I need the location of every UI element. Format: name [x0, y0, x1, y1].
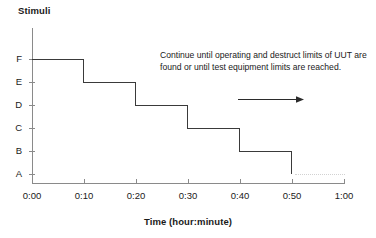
- y-label-a: A: [4, 168, 22, 179]
- step-drop-f-to-e: [83, 59, 84, 82]
- y-tick-a: [29, 174, 35, 175]
- step-drop-c-to-b: [239, 128, 240, 151]
- y-label-c: C: [4, 122, 22, 133]
- annotation-text: Continue until operating and destruct li…: [160, 50, 372, 73]
- stimuli-step-chart: Stimuli Time (hour:minute) F E D C B A 0…: [0, 0, 376, 238]
- x-label-0-30: 0:30: [166, 190, 210, 201]
- step-segment-e: [83, 82, 136, 83]
- step-segment-a-dotted: [295, 174, 345, 175]
- x-tick-1-00: [344, 179, 345, 184]
- step-drop-d-to-c: [187, 105, 188, 128]
- y-tick-d: [29, 105, 35, 106]
- continuation-arrow-icon: [238, 95, 304, 104]
- x-label-0-10: 0:10: [62, 190, 106, 201]
- x-label-1-00: 1:00: [322, 190, 366, 201]
- y-label-d: D: [4, 99, 22, 110]
- x-tick-0-30: [188, 179, 189, 184]
- step-segment-f: [32, 59, 84, 60]
- x-label-0-20: 0:20: [114, 190, 158, 201]
- step-drop-e-to-d: [135, 82, 136, 105]
- x-tick-0-20: [136, 179, 137, 184]
- y-label-f: F: [4, 53, 22, 64]
- step-drop-b-to-a: [291, 151, 292, 174]
- step-segment-c: [187, 128, 240, 129]
- x-tick-0-00: [32, 179, 33, 184]
- x-label-0-50: 0:50: [270, 190, 314, 201]
- step-segment-d: [135, 105, 188, 106]
- y-label-e: E: [4, 76, 22, 87]
- y-tick-e: [29, 82, 35, 83]
- x-axis-title: Time (hour:minute): [0, 216, 376, 227]
- y-tick-b: [29, 151, 35, 152]
- x-label-0-40: 0:40: [218, 190, 262, 201]
- x-tick-0-50: [292, 179, 293, 184]
- x-tick-0-10: [84, 179, 85, 184]
- x-tick-0-40: [240, 179, 241, 184]
- y-axis-title: Stimuli: [18, 5, 50, 16]
- y-label-b: B: [4, 145, 22, 156]
- y-axis-line: [32, 28, 33, 184]
- y-tick-c: [29, 128, 35, 129]
- x-label-0-00: 0:00: [10, 190, 54, 201]
- step-segment-b: [239, 151, 292, 152]
